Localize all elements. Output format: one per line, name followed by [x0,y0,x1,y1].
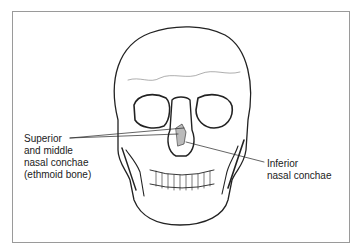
cranial-suture [128,72,240,81]
lower-teeth [150,184,214,188]
skull-illustration [0,0,358,246]
label-line: and middle [24,145,91,157]
label-line: nasal conchae [267,170,332,182]
leader-inferior [186,142,264,162]
label-line: nasal conchae [24,157,91,169]
label-line: Superior [24,133,91,145]
label-superior-middle-conchae: Superior and middle nasal conchae (ethmo… [24,133,91,181]
upper-teeth [150,170,214,175]
right-orbit [196,95,232,128]
label-line: (ethmoid bone) [24,169,91,181]
left-orbit [134,95,170,128]
nasal-conchae [176,124,186,146]
label-line: Inferior [267,158,332,170]
label-inferior-conchae: Inferior nasal conchae [267,158,332,182]
